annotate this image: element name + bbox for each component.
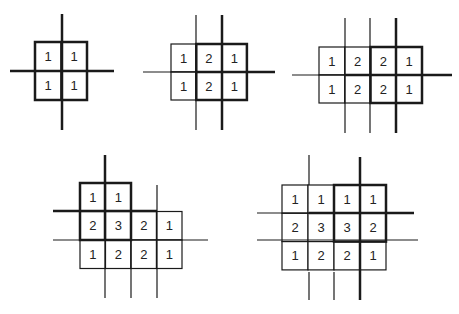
diagram-2x4-grid: 12211221 <box>292 18 452 133</box>
diagram-3x4-grid: 111123321221 <box>257 155 418 300</box>
cell-value: 1 <box>231 51 238 66</box>
cell-value: 2 <box>354 82 361 97</box>
cell-value: 2 <box>205 79 212 94</box>
cell-value: 2 <box>380 82 387 97</box>
cell-value: 1 <box>166 218 173 233</box>
cell-value: 1 <box>291 192 298 207</box>
cell-value: 1 <box>180 79 187 94</box>
cell-value: 1 <box>166 247 173 262</box>
cell-value: 2 <box>369 220 376 235</box>
cell-value: 1 <box>328 54 335 69</box>
cell-value: 2 <box>140 218 147 233</box>
cell-value: 1 <box>317 192 324 207</box>
cell-value: 1 <box>369 192 376 207</box>
cell-value: 2 <box>140 247 147 262</box>
cell-value: 1 <box>343 192 350 207</box>
cell-value: 1 <box>406 82 413 97</box>
cell-value: 1 <box>70 49 77 64</box>
cell-value: 1 <box>89 190 96 205</box>
diagram-2x3-grid: 121121 <box>143 15 275 130</box>
diagram-l-shaped-grid: 1123211221 <box>53 155 208 298</box>
cell-value: 2 <box>291 220 298 235</box>
cell-value: 3 <box>317 220 324 235</box>
cell-value: 1 <box>406 54 413 69</box>
cell-value: 2 <box>317 248 324 263</box>
cell-value: 2 <box>380 54 387 69</box>
cell-value: 1 <box>328 82 335 97</box>
cell-value: 1 <box>231 79 238 94</box>
cell-value: 3 <box>343 220 350 235</box>
cell-value: 3 <box>115 218 122 233</box>
cell-value: 1 <box>44 49 51 64</box>
diagram-2x2-grid: 1111 <box>10 14 114 130</box>
cell-value: 1 <box>369 248 376 263</box>
cell-value: 2 <box>89 218 96 233</box>
cell-value: 2 <box>343 248 350 263</box>
cell-value: 1 <box>291 248 298 263</box>
cell-value: 1 <box>115 190 122 205</box>
cell-value: 1 <box>180 51 187 66</box>
cell-value: 2 <box>205 51 212 66</box>
cell-value: 2 <box>115 247 122 262</box>
cell-value: 2 <box>354 54 361 69</box>
cell-value: 1 <box>89 247 96 262</box>
cell-value: 1 <box>44 78 51 93</box>
diagram-canvas: 1111 121121 12211221 1123211221 11112332… <box>0 0 459 314</box>
cell-value: 1 <box>70 78 77 93</box>
